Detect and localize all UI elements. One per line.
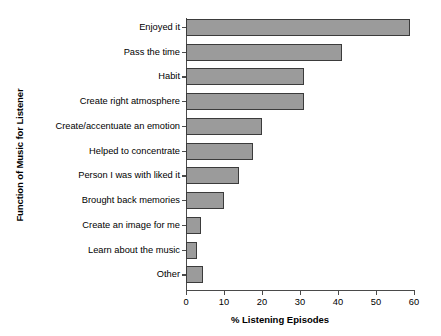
bar	[186, 266, 203, 283]
x-axis-tick-label: 30	[288, 297, 312, 307]
bar	[186, 19, 410, 36]
category-label: Create right atmosphere	[80, 96, 180, 106]
x-axis-tick	[224, 290, 225, 295]
bar	[186, 192, 224, 209]
x-axis-tick	[262, 290, 263, 295]
plot-area: Enjoyed itPass the timeHabitCreate right…	[186, 18, 414, 290]
bar	[186, 44, 342, 61]
x-axis-tick-label: 20	[250, 297, 274, 307]
category-label: Create/accentuate an emotion	[55, 121, 180, 131]
category-label: Helped to concentrate	[89, 146, 180, 156]
category-label: Enjoyed it	[139, 22, 180, 32]
x-axis-tick	[376, 290, 377, 295]
bar	[186, 68, 304, 85]
category-label: Pass the time	[124, 47, 180, 57]
y-axis-title: Function of Music for Listener	[14, 10, 28, 300]
bar	[186, 118, 262, 135]
bar	[186, 143, 253, 160]
bar	[186, 93, 304, 110]
bar-chart: Function of Music for Listener Enjoyed i…	[0, 0, 441, 336]
x-axis-tick	[300, 290, 301, 295]
x-axis-title: % Listening Episodes	[140, 314, 420, 325]
category-label: Create an image for me	[82, 220, 180, 230]
category-label: Brought back memories	[82, 195, 180, 205]
x-axis-tick	[414, 290, 415, 295]
x-axis-tick	[186, 290, 187, 295]
category-label: Habit	[158, 71, 180, 81]
bar	[186, 167, 239, 184]
category-label: Learn about the music	[88, 245, 180, 255]
bar	[186, 217, 201, 234]
bar	[186, 242, 197, 259]
x-axis-tick-label: 60	[402, 297, 426, 307]
category-label: Person I was with liked it	[78, 170, 180, 180]
x-axis-tick-label: 0	[174, 297, 198, 307]
x-axis-tick-label: 40	[326, 297, 350, 307]
x-axis-tick-label: 10	[212, 297, 236, 307]
x-axis-tick	[338, 290, 339, 295]
x-axis-tick-label: 50	[364, 297, 388, 307]
category-label: Other	[157, 269, 180, 279]
